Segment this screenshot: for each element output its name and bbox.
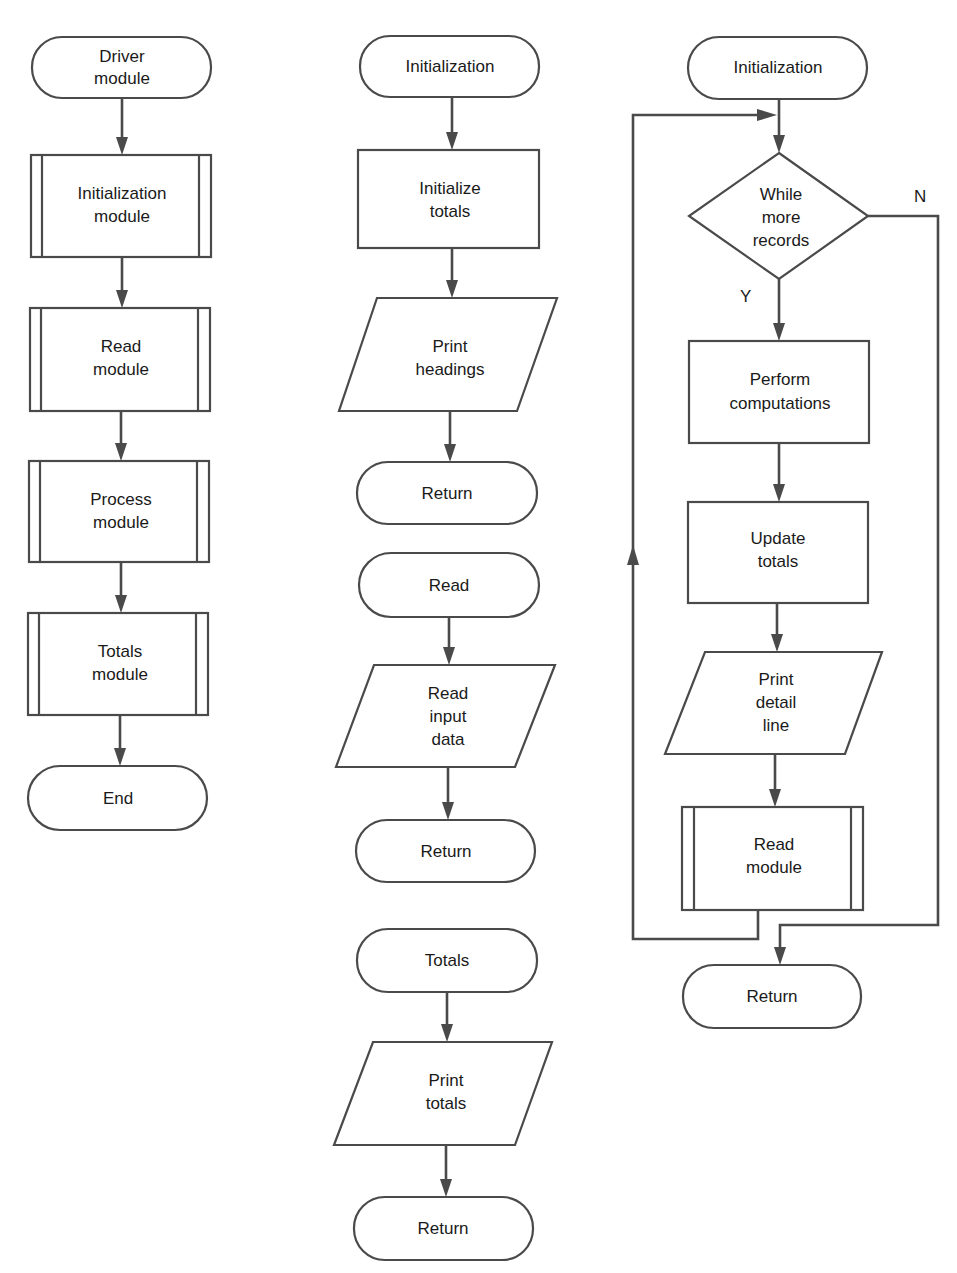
node-read-input-data: Read input data bbox=[336, 665, 555, 767]
node-perform-computations: Perform computations bbox=[689, 341, 869, 443]
svg-text:End: End bbox=[103, 789, 133, 808]
svg-text:While: While bbox=[760, 185, 803, 204]
svg-text:Return: Return bbox=[417, 1219, 468, 1238]
svg-text:Return: Return bbox=[746, 987, 797, 1006]
svg-text:totals: totals bbox=[426, 1094, 467, 1113]
node-read-module: Read module bbox=[30, 308, 210, 411]
node-process-module: Process module bbox=[29, 461, 209, 562]
svg-text:detail: detail bbox=[756, 693, 797, 712]
no-branch-label: N bbox=[914, 187, 926, 206]
svg-text:module: module bbox=[746, 858, 802, 877]
node-initialize-totals: Initialize totals bbox=[358, 150, 539, 248]
node-read-start: Read bbox=[359, 553, 539, 617]
svg-text:module: module bbox=[92, 665, 148, 684]
node-while-more-records: While more records bbox=[689, 153, 868, 279]
svg-text:Initialization: Initialization bbox=[734, 58, 823, 77]
arrow bbox=[442, 767, 454, 820]
svg-text:line: line bbox=[763, 716, 789, 735]
svg-text:Read: Read bbox=[429, 576, 470, 595]
node-process-initialization: Initialization bbox=[688, 37, 867, 99]
arrow bbox=[116, 257, 128, 308]
node-process-return: Return bbox=[683, 965, 861, 1028]
svg-text:Initialize: Initialize bbox=[419, 179, 480, 198]
svg-text:headings: headings bbox=[415, 360, 484, 379]
svg-text:Return: Return bbox=[421, 484, 472, 503]
node-totals-start: Totals bbox=[357, 929, 537, 992]
arrow bbox=[769, 754, 781, 807]
node-read-return: Return bbox=[356, 820, 535, 882]
arrow bbox=[440, 1145, 452, 1197]
arrow bbox=[773, 99, 785, 153]
node-update-totals: Update totals bbox=[688, 502, 868, 603]
svg-text:computations: computations bbox=[729, 394, 830, 413]
svg-text:records: records bbox=[753, 231, 810, 250]
svg-text:module: module bbox=[94, 207, 150, 226]
arrow bbox=[441, 992, 453, 1042]
svg-text:Print: Print bbox=[433, 337, 468, 356]
yes-branch-arrow bbox=[773, 279, 785, 341]
yes-branch-label: Y bbox=[740, 287, 751, 306]
svg-text:module: module bbox=[94, 69, 150, 88]
svg-text:module: module bbox=[93, 360, 149, 379]
svg-text:Totals: Totals bbox=[98, 642, 142, 661]
svg-text:Read: Read bbox=[428, 684, 469, 703]
svg-text:Initialization: Initialization bbox=[406, 57, 495, 76]
node-totals-return: Return bbox=[354, 1197, 533, 1260]
svg-text:module: module bbox=[93, 513, 149, 532]
svg-text:Print: Print bbox=[759, 670, 794, 689]
arrow bbox=[771, 603, 783, 652]
svg-text:Perform: Perform bbox=[750, 370, 810, 389]
arrow bbox=[115, 562, 127, 613]
svg-text:Read: Read bbox=[754, 835, 795, 854]
svg-text:Update: Update bbox=[751, 529, 806, 548]
arrow bbox=[443, 617, 455, 665]
arrow bbox=[773, 443, 785, 502]
node-initialization-module: Initialization module bbox=[31, 155, 211, 257]
arrow bbox=[116, 98, 128, 155]
arrow bbox=[114, 715, 126, 766]
svg-text:more: more bbox=[762, 208, 801, 227]
arrow bbox=[446, 97, 458, 150]
node-totals-module: Totals module bbox=[28, 613, 208, 715]
flowchart-canvas: Driver module Initialization module Read… bbox=[0, 0, 957, 1273]
node-init-return: Return bbox=[357, 462, 537, 524]
svg-text:Initialization: Initialization bbox=[78, 184, 167, 203]
node-end: End bbox=[28, 766, 207, 830]
svg-text:Totals: Totals bbox=[425, 951, 469, 970]
arrow bbox=[446, 248, 458, 298]
node-driver-module: Driver module bbox=[32, 37, 211, 98]
svg-text:Read: Read bbox=[101, 337, 142, 356]
svg-text:totals: totals bbox=[758, 552, 799, 571]
node-initialization-start: Initialization bbox=[360, 36, 539, 97]
svg-text:Process: Process bbox=[90, 490, 151, 509]
svg-text:Return: Return bbox=[420, 842, 471, 861]
arrow bbox=[444, 411, 456, 462]
node-print-headings: Print headings bbox=[339, 298, 557, 411]
svg-text:totals: totals bbox=[430, 202, 471, 221]
svg-text:data: data bbox=[431, 730, 465, 749]
node-process-read-module: Read module bbox=[682, 807, 863, 910]
svg-text:input: input bbox=[430, 707, 467, 726]
arrow bbox=[115, 411, 127, 461]
svg-text:Print: Print bbox=[429, 1071, 464, 1090]
svg-text:Driver: Driver bbox=[99, 47, 145, 66]
node-print-detail-line: Print detail line bbox=[665, 652, 882, 754]
node-print-totals: Print totals bbox=[334, 1042, 552, 1145]
